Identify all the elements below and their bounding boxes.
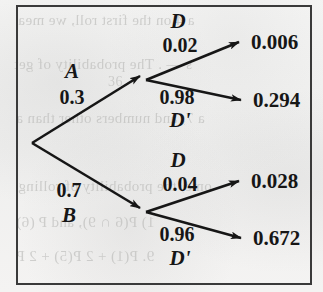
outcome-value-3: 0.028 [251,169,298,194]
branch-b-d-probability: 0.04 [163,173,198,196]
branch-a-dprime-probability: 0.98 [160,86,195,109]
branch-a-letter: A [65,59,79,84]
outcome-value-1: 0.006 [251,30,298,55]
branch-b-dprime-letter: D' [170,246,191,271]
branch-a-dprime-letter: D' [170,108,191,133]
branch-b-d-letter: D [170,148,185,173]
branch-root-to-b [32,143,140,208]
branch-b-dprime-probability: 0.96 [160,223,195,246]
outcome-value-2: 0.294 [253,88,300,113]
outcome-value-4: 0.672 [253,226,300,251]
figure-page: a 4 on the first roll, we mea s — . The … [0,0,323,292]
branch-a-d-letter: D [170,9,185,34]
branch-a-probability: 0.3 [60,86,85,109]
branch-b-probability: 0.7 [57,179,82,202]
branch-a-d-probability: 0.02 [163,34,198,57]
branch-root-to-a [32,76,140,143]
branch-b-letter: B [62,203,76,228]
